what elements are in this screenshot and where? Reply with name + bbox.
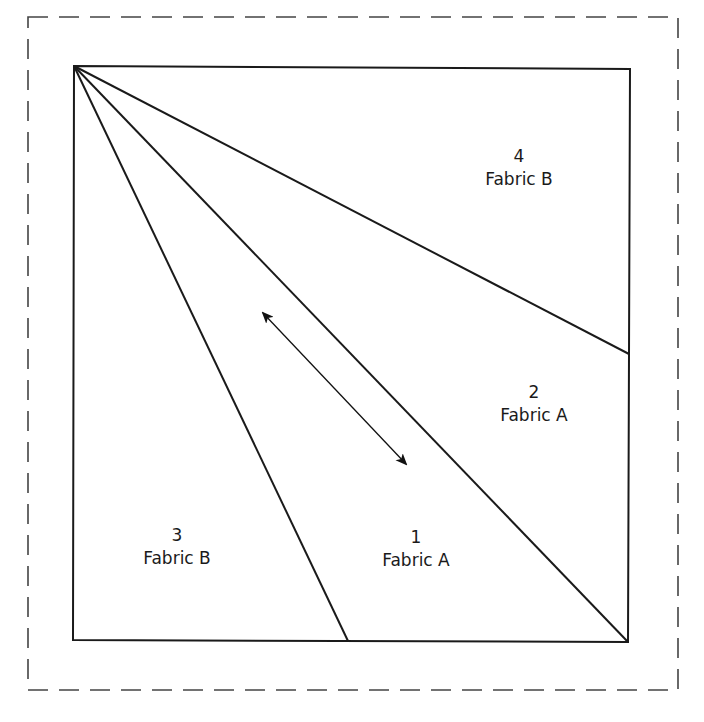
piece-label-4: 4 Fabric B	[449, 145, 589, 191]
seam-allowance-border	[28, 17, 678, 690]
seam-line-2-4	[74, 66, 629, 354]
piece-fabric: Fabric A	[346, 549, 486, 572]
piece-label-2: 2 Fabric A	[464, 381, 604, 427]
quilt-block-diagram	[0, 0, 704, 722]
piece-number: 3	[107, 524, 247, 547]
piece-fabric: Fabric B	[449, 168, 589, 191]
piece-fabric: Fabric A	[464, 404, 604, 427]
piece-fabric: Fabric B	[107, 547, 247, 570]
piece-number: 2	[464, 381, 604, 404]
piece-label-1: 1 Fabric A	[346, 526, 486, 572]
piece-label-3: 3 Fabric B	[107, 524, 247, 570]
piece-number: 4	[449, 145, 589, 168]
piece-number: 1	[346, 526, 486, 549]
